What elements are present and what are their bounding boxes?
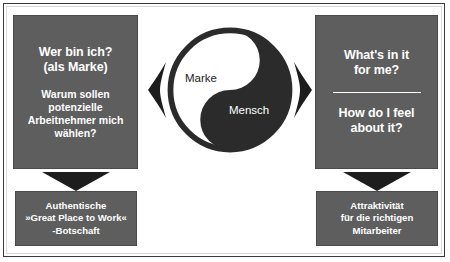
employee-question1-line2: for me? bbox=[354, 63, 399, 78]
label-marke: Marke bbox=[185, 72, 217, 84]
employee-question2-line1: How do I feel bbox=[339, 106, 415, 121]
yin-yang-icon bbox=[166, 23, 294, 157]
attractiveness-line3: Mitarbeiter bbox=[352, 225, 401, 237]
down-arrow-right bbox=[343, 172, 411, 191]
authentic-line2: »Great Place to Work« bbox=[25, 212, 127, 224]
employee-question1-line1: What's in it bbox=[344, 48, 409, 63]
brand-sub-line3: Arbeitnehmer mich bbox=[28, 114, 124, 127]
employee-question2-line2: about it? bbox=[351, 121, 403, 136]
down-arrow-left bbox=[42, 172, 110, 191]
box-employee-question: What's in it for me? How do I feel about… bbox=[316, 16, 437, 168]
arrow-left-icon bbox=[148, 62, 168, 118]
brand-sub-line4: wählen? bbox=[54, 127, 96, 140]
authentic-line3: -Botschaft bbox=[52, 225, 99, 237]
label-mensch: Mensch bbox=[229, 104, 269, 116]
authentic-line1: Authentische bbox=[46, 200, 107, 212]
diagram-canvas: Wer bin ich? (als Marke) Warum sollen po… bbox=[0, 0, 450, 262]
brand-question-line1: Wer bin ich? bbox=[39, 45, 113, 60]
brand-sub-line1: Warum sollen bbox=[41, 88, 109, 101]
attractiveness-line2: für die richtigen bbox=[341, 212, 414, 224]
attractiveness-line1: Attraktivität bbox=[350, 200, 403, 212]
box-attractiveness: Attraktivität für die richtigen Mitarbei… bbox=[317, 192, 437, 245]
box-brand-question: Wer bin ich? (als Marke) Warum sollen po… bbox=[14, 16, 137, 168]
box-divider-line bbox=[333, 92, 421, 93]
box-authentic-message: Authentische »Great Place to Work« -Bots… bbox=[16, 192, 136, 245]
brand-question-line2: (als Marke) bbox=[43, 60, 107, 75]
brand-sub-line2: potenzielle bbox=[48, 101, 102, 114]
arrow-right-icon bbox=[292, 62, 312, 118]
